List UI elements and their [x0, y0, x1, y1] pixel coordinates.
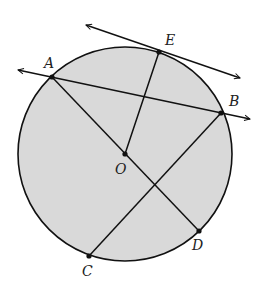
point-c	[86, 253, 91, 258]
diagram-canvas: ABCDEO	[0, 0, 266, 290]
point-o	[122, 151, 127, 156]
label-o: O	[115, 161, 127, 177]
point-a	[49, 74, 54, 79]
point-d	[196, 228, 201, 233]
label-a: A	[42, 55, 54, 71]
point-b	[218, 110, 223, 115]
label-b: B	[228, 93, 239, 109]
label-c: C	[82, 263, 93, 279]
point-e	[156, 49, 161, 54]
label-d: D	[191, 237, 203, 253]
circle-diagram: ABCDEO	[0, 0, 266, 290]
label-e: E	[164, 32, 175, 48]
